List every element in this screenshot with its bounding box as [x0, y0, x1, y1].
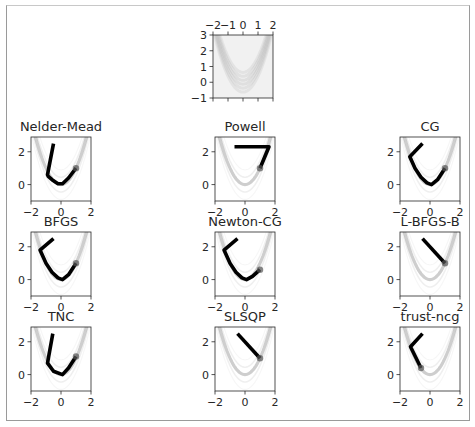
y-tick-label: 2: [18, 241, 25, 254]
panel-title: TNC: [47, 309, 75, 324]
y-tick-label: 2: [387, 241, 394, 254]
y-tick-label: 0: [202, 179, 209, 192]
y-tick-label: 2: [18, 336, 25, 349]
panel-title: CG: [420, 119, 439, 134]
path-end-marker: [73, 260, 79, 266]
x-tick-label: 2: [88, 396, 95, 409]
y-tick-label: 0: [18, 274, 25, 287]
path-end-marker: [257, 165, 263, 171]
x-tick-label: −2: [392, 396, 408, 409]
panel-trust-ncg: trust-ncg−20202: [387, 309, 464, 409]
path-end-marker: [257, 355, 263, 361]
x-tick-label: 0: [242, 396, 249, 409]
y-tick-label: 3: [200, 29, 207, 42]
y-tick-label: 2: [200, 45, 207, 58]
panel-l-bfgs-b: L-BFGS-B−20202: [387, 214, 464, 314]
path-end-marker: [442, 165, 448, 171]
y-tick-label: 0: [387, 274, 394, 287]
x-tick-label: 1: [255, 19, 262, 32]
panel-bfgs: BFGS−20202: [18, 214, 95, 314]
x-tick-label: 2: [457, 396, 464, 409]
overview-panel: −2−1012−10123: [191, 9, 277, 105]
y-tick-label: 0: [202, 369, 209, 382]
x-tick-label: −2: [207, 301, 223, 314]
x-tick-label: −1: [220, 19, 236, 32]
y-tick-label: 0: [387, 369, 394, 382]
figure-canvas: −2−1012−10123Nelder-Mead−20202Powell−202…: [0, 0, 475, 427]
panel-title: SLSQP: [224, 309, 266, 324]
panel-nelder-mead: Nelder-Mead−20202: [18, 119, 102, 219]
path-end-marker: [73, 165, 79, 171]
path-end-marker: [442, 260, 448, 266]
x-tick-label: −2: [207, 396, 223, 409]
y-tick-label: 0: [202, 274, 209, 287]
path-end-marker: [257, 267, 263, 273]
y-tick-label: 1: [200, 61, 207, 74]
panel-title: Nelder-Mead: [20, 119, 102, 134]
x-tick-label: −2: [23, 301, 39, 314]
x-tick-label: 0: [58, 396, 65, 409]
y-tick-label: −1: [191, 92, 207, 105]
panel-title: L-BFGS-B: [400, 214, 459, 229]
x-tick-label: 0: [427, 396, 434, 409]
y-tick-label: 2: [387, 146, 394, 159]
panel-title: trust-ncg: [401, 309, 460, 324]
x-tick-label: −2: [205, 19, 221, 32]
y-tick-label: 0: [200, 76, 207, 89]
y-tick-label: 0: [18, 369, 25, 382]
x-tick-label: −2: [23, 206, 39, 219]
x-tick-label: 2: [270, 19, 277, 32]
panel-powell: Powell−20202: [202, 119, 279, 219]
panel-title: Newton-CG: [208, 214, 282, 229]
panel-title: Powell: [224, 119, 265, 134]
panel-newton-cg: Newton-CG−20202: [202, 214, 282, 314]
panel-slsqp: SLSQP−20202: [202, 309, 279, 409]
y-tick-label: 2: [387, 336, 394, 349]
panel-cg: CG−20202: [387, 119, 464, 219]
panel-tnc: TNC−20202: [18, 309, 95, 409]
x-tick-label: −2: [23, 396, 39, 409]
x-tick-label: 2: [272, 301, 279, 314]
y-tick-label: 2: [202, 336, 209, 349]
x-tick-label: 2: [88, 206, 95, 219]
x-tick-label: 2: [88, 301, 95, 314]
path-end-marker: [73, 353, 79, 359]
y-tick-label: 2: [202, 241, 209, 254]
y-tick-label: 2: [202, 146, 209, 159]
panel-title: BFGS: [44, 214, 79, 229]
y-tick-label: 0: [387, 179, 394, 192]
x-tick-label: 0: [240, 19, 247, 32]
path-end-marker: [418, 365, 424, 371]
x-tick-label: 2: [272, 396, 279, 409]
y-tick-label: 2: [18, 146, 25, 159]
y-tick-label: 0: [18, 179, 25, 192]
